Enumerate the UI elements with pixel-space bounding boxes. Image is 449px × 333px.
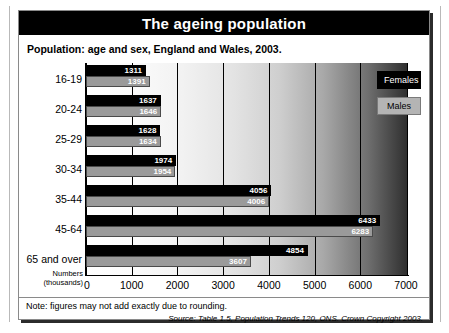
bar-male: 6283 <box>86 226 373 237</box>
axis-units-line1: Numbers <box>31 269 83 278</box>
bar-female: 1628 <box>86 125 160 136</box>
footer-divider <box>19 297 429 298</box>
bar-value-male: 1634 <box>139 138 157 146</box>
bar-group-30-34: 30-34 1974 1954 <box>19 155 429 184</box>
chart-panel: The ageing population Population: age an… <box>18 10 430 320</box>
bar-male: 1954 <box>86 166 175 177</box>
bar-female: 1311 <box>86 65 146 76</box>
x-tick-3000: 3000 <box>211 279 234 291</box>
chart-subtitle: Population: age and sex, England and Wal… <box>27 43 282 55</box>
x-axis-line <box>85 275 409 276</box>
frame-rule-right <box>440 6 441 322</box>
bar-value-female: 4056 <box>250 187 268 195</box>
source-citation: Source: Table 1.5, Population Trends 120… <box>168 314 423 323</box>
legend-item-males: Males <box>377 97 421 115</box>
x-axis-tick-labels: 0 1000 2000 3000 4000 5000 6000 7000 <box>19 279 429 295</box>
bar-female: 1974 <box>86 155 176 166</box>
page-title: The ageing population <box>142 15 306 32</box>
category-label: 65 and over <box>27 253 82 265</box>
bar-female: 4056 <box>86 185 271 196</box>
bar-value-female: 1637 <box>139 97 157 105</box>
bar-value-male: 1646 <box>139 108 157 116</box>
screenshot-root: The ageing population Population: age an… <box>0 0 449 333</box>
bar-female: 1637 <box>86 95 161 106</box>
bar-male: 1391 <box>86 76 150 87</box>
legend-item-females: Females <box>377 71 421 89</box>
bar-male: 1646 <box>86 106 161 117</box>
bar-value-male: 1954 <box>154 168 172 176</box>
footnote: Note: figures may not add exactly due to… <box>26 301 227 311</box>
bar-group-25-29: 25-29 1628 1634 <box>19 125 429 154</box>
bar-male: 1634 <box>86 136 161 147</box>
category-label: 35-44 <box>55 193 82 205</box>
bar-value-male: 4006 <box>247 198 265 206</box>
x-tick-5000: 5000 <box>303 279 326 291</box>
category-label: 25-29 <box>55 133 82 145</box>
x-tick-6000: 6000 <box>349 279 372 291</box>
bar-value-female: 1974 <box>154 157 172 165</box>
x-tick-0: 0 <box>84 279 90 291</box>
bar-male: 4006 <box>86 196 269 207</box>
x-tick-7000: 7000 <box>394 279 417 291</box>
x-tick-2000: 2000 <box>166 279 189 291</box>
bar-value-male: 6283 <box>351 228 369 236</box>
category-label: 16-19 <box>55 73 82 85</box>
bar-value-male: 3607 <box>229 258 247 266</box>
bar-group-35-44: 35-44 4056 4006 <box>19 185 429 214</box>
category-label: 30-34 <box>55 163 82 175</box>
bar-group-16-19: 16-19 1311 1391 <box>19 65 429 94</box>
panel-shadow-right <box>430 13 433 323</box>
bar-value-male: 1391 <box>128 78 146 86</box>
category-label: 20-24 <box>55 103 82 115</box>
bar-female: 4854 <box>86 245 308 256</box>
x-tick-1000: 1000 <box>120 279 143 291</box>
frame-rule-left <box>9 6 10 322</box>
x-tick-4000: 4000 <box>257 279 280 291</box>
category-label: 45-64 <box>55 223 82 235</box>
bar-chart: 16-19 1311 1391 20-24 1637 1646 <box>19 63 429 295</box>
bar-female: 6433 <box>86 215 380 226</box>
title-bar: The ageing population <box>19 11 429 35</box>
bar-value-female: 1311 <box>125 67 142 75</box>
bar-group-20-24: 20-24 1637 1646 <box>19 95 429 124</box>
bar-male: 3607 <box>86 256 251 267</box>
bar-group-45-64: 45-64 6433 6283 <box>19 215 429 244</box>
bar-value-female: 4854 <box>286 247 304 255</box>
bar-value-female: 1628 <box>139 127 157 135</box>
bar-value-female: 6433 <box>358 217 376 225</box>
